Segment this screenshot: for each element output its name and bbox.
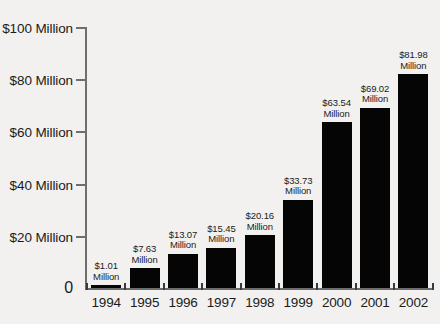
bar-value-unit: Million [272, 186, 324, 197]
bar-value-unit: Million [387, 61, 439, 72]
y-tick-label-80: $80 Million [10, 73, 73, 88]
bar-1997 [206, 248, 236, 288]
y-tick-mark-100 [76, 27, 86, 29]
x-tick-label-1994: 1994 [86, 295, 126, 310]
bar-value-amount: $81.98 [387, 50, 439, 61]
y-tick-mark-20 [76, 236, 86, 238]
bar-value-unit: Million [349, 94, 401, 105]
x-tick-mark-1995 [163, 283, 165, 290]
bar-1999 [283, 200, 313, 288]
bar-value-label-1998: $20.16Million [234, 211, 286, 232]
bar-1995 [130, 268, 160, 288]
bar-1998 [245, 235, 275, 288]
x-tick-label-2002: 2002 [393, 295, 433, 310]
x-tick-label-1995: 1995 [125, 295, 165, 310]
bar-1994 [91, 285, 121, 288]
x-tick-mark-1999 [316, 283, 318, 290]
bar-value-unit: Million [234, 222, 286, 233]
y-tick-mark-60 [76, 131, 86, 133]
y-tick-label-40: $40 Million [10, 178, 73, 193]
bar-2001 [360, 108, 390, 288]
y-axis-line [85, 27, 87, 289]
x-tick-mark-1994 [124, 283, 126, 290]
y-tick-label-0: 0 [64, 279, 73, 297]
bar-2000 [322, 122, 352, 288]
y-tick-label-60: $60 Million [10, 125, 73, 140]
x-axis-line [85, 288, 433, 290]
x-tick-mark-2002 [432, 283, 434, 290]
bar-1996 [168, 254, 198, 288]
x-tick-label-1997: 1997 [201, 295, 241, 310]
x-tick-label-2001: 2001 [355, 295, 395, 310]
bar-value-unit: Million [80, 272, 132, 283]
x-tick-mark-2000 [355, 283, 357, 290]
bar-value-unit: Million [195, 234, 247, 245]
x-tick-label-2000: 2000 [317, 295, 357, 310]
y-tick-mark-80 [76, 79, 86, 81]
x-tick-mark-1996 [201, 283, 203, 290]
x-tick-label-1998: 1998 [240, 295, 280, 310]
y-tick-mark-40 [76, 184, 86, 186]
y-tick-label-20: $20 Million [10, 230, 73, 245]
bar-value-label-2001: $69.02Million [349, 84, 401, 105]
bar-chart: $100 Million $80 Million $60 Million $40… [0, 0, 440, 324]
bar-value-label-1999: $33.73Million [272, 176, 324, 197]
bar-value-unit: Million [119, 255, 171, 266]
y-tick-label-100: $100 Million [2, 21, 73, 36]
bar-value-label-2002: $81.98Million [387, 50, 439, 71]
bar-value-unit: Million [311, 109, 363, 120]
bar-2002 [398, 74, 428, 288]
x-tick-mark-origin [86, 283, 88, 290]
x-tick-mark-1998 [278, 283, 280, 290]
x-tick-mark-2001 [393, 283, 395, 290]
x-tick-mark-1997 [240, 283, 242, 290]
x-tick-label-1996: 1996 [163, 295, 203, 310]
x-tick-label-1999: 1999 [278, 295, 318, 310]
